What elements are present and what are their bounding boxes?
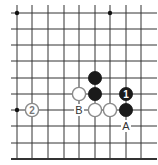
- star-point: [108, 11, 112, 15]
- black-stone: [119, 103, 132, 116]
- go-board-diagram: BA 12: [0, 0, 158, 165]
- black-stone: [88, 87, 101, 100]
- white-stone: [88, 103, 101, 116]
- white-stone: [72, 87, 85, 100]
- move-number-1: 1: [123, 89, 129, 100]
- white-stone: [103, 103, 116, 116]
- mark-a: A: [122, 120, 130, 132]
- grid-lines: [11, 5, 157, 159]
- star-point: [15, 108, 19, 112]
- star-point: [15, 11, 19, 15]
- black-stone: [88, 71, 101, 84]
- mark-b: B: [75, 104, 82, 116]
- move-number-2: 2: [29, 105, 35, 116]
